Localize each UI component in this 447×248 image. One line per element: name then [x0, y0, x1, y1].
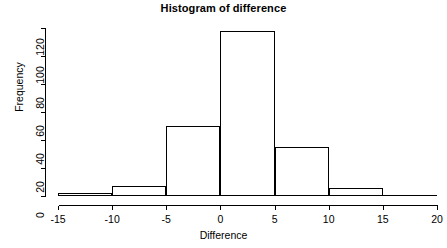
histogram-bar	[329, 188, 382, 195]
histogram-bar	[221, 31, 274, 195]
plot-canvas	[0, 0, 447, 248]
histogram-bar	[167, 127, 220, 196]
histogram-bars	[59, 31, 437, 195]
histogram-plot: Histogram of difference Frequency Differ…	[0, 0, 447, 248]
x-tick-label: -5	[136, 213, 196, 225]
x-tick-label: -10	[82, 213, 142, 225]
y-tick-label: 120	[34, 27, 46, 67]
histogram-bar	[59, 194, 112, 196]
histogram-bar	[383, 195, 436, 196]
histogram-bar	[113, 187, 166, 196]
x-tick-label: 10	[299, 213, 359, 225]
x-tick-label: 15	[353, 213, 413, 225]
x-tick-label: 5	[245, 213, 305, 225]
histogram-bar	[275, 148, 328, 196]
x-tick-label: 0	[190, 213, 250, 225]
x-tick-label: 20	[407, 213, 447, 225]
